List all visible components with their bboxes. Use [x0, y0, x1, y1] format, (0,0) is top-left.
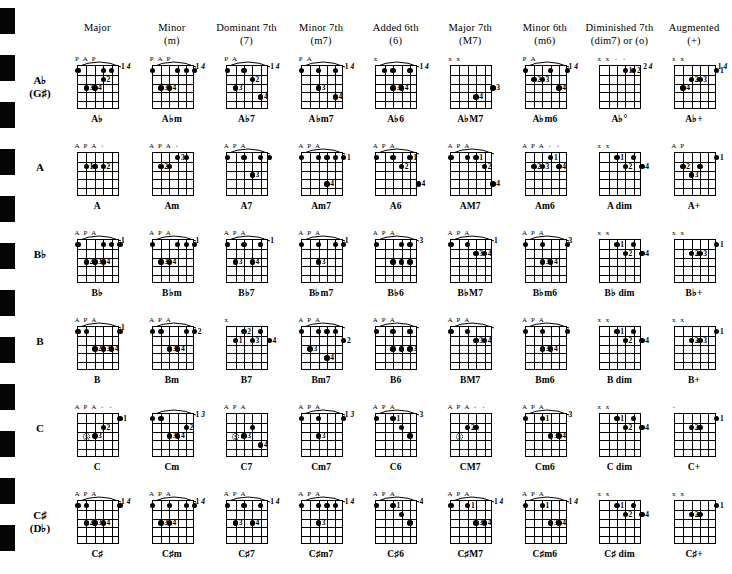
finger-dot — [689, 425, 694, 430]
chord-cell[interactable]: APA1341 4C♯M7 — [433, 487, 508, 574]
finger-number: 1 — [123, 415, 127, 423]
chord-cell[interactable]: x1234B7 — [209, 313, 284, 400]
chord-cell[interactable]: APA1341 4C♯m6 — [508, 487, 583, 574]
chord-cell[interactable]: APA1343Cm6 — [508, 400, 583, 487]
open-marker: ◦ — [98, 404, 106, 411]
chord-cell[interactable]: AP123A+ — [657, 139, 732, 226]
chord-cell[interactable]: PAP2341 4A♭ — [60, 52, 135, 139]
chord-cell[interactable]: APA343B♭m6 — [508, 226, 583, 313]
finger-dot — [233, 338, 238, 343]
chord-cell[interactable]: APA341B♭M7 — [433, 226, 508, 313]
fret-line — [600, 519, 640, 520]
chord-cell[interactable]: APA34BM7 — [433, 313, 508, 400]
chord-cell[interactable]: xx123B♭+ — [657, 226, 732, 313]
column-header-symbol: (6) — [358, 35, 433, 48]
row-label-enharmonic: (D♭) — [22, 522, 58, 535]
fret-line — [675, 101, 715, 102]
chord-cell[interactable]: APA◦◦32CM7 — [433, 400, 508, 487]
finger-hint-A: A — [164, 143, 172, 150]
chord-cell[interactable]: APA31 3Cm7 — [284, 400, 359, 487]
chord-cell[interactable]: APA342Bm — [135, 313, 210, 400]
chord-cell[interactable]: PAP341 4A♭m — [135, 52, 210, 139]
finger-dot — [75, 329, 80, 334]
chord-cell[interactable]: APA31 4C♯m7 — [284, 487, 359, 574]
finger-number: 2 — [488, 163, 492, 171]
finger-dot — [614, 503, 619, 508]
mute-marker: x — [595, 56, 603, 63]
fret-line — [451, 440, 491, 441]
chord-cell[interactable]: PA341 4A♭m7 — [284, 52, 359, 139]
row-label: A — [22, 161, 58, 174]
finger-number: 4 — [479, 93, 483, 101]
chord-cell[interactable]: APA2341 4C♯ — [60, 487, 135, 574]
finger-number: 4 — [256, 519, 260, 527]
fretboard-grid: 12 — [674, 413, 716, 457]
finger-number: 1 — [620, 328, 624, 336]
chord-cell[interactable]: xx123B+ — [657, 313, 732, 400]
chord-cell[interactable]: APA◦◦2314Am6 — [508, 139, 583, 226]
chord-cell[interactable]: 2341 3Cm — [135, 400, 210, 487]
chord-cell[interactable]: APA3A7 — [209, 139, 284, 226]
nut-markers: APA◦◦ — [77, 404, 119, 413]
chord-cell[interactable]: APA31B♭m7 — [284, 226, 359, 313]
chord-cell[interactable]: APA◦◦3321C — [60, 400, 135, 487]
chord-cell[interactable]: APA13C6 — [358, 400, 433, 487]
chord-cell[interactable]: xx124B dim — [582, 313, 657, 400]
chord-cell[interactable]: APA341B♭7 — [209, 226, 284, 313]
chord-cell[interactable]: APA3B6 — [358, 313, 433, 400]
chord-cell[interactable]: APA124A6 — [358, 139, 433, 226]
chord-cell[interactable]: APA◦23Am — [135, 139, 210, 226]
chord-cell[interactable]: APA341 4C♯m — [135, 487, 210, 574]
chord-cell[interactable]: xx124C♯ dim — [582, 487, 657, 574]
chord-cell[interactable]: APA34Bm6 — [508, 313, 583, 400]
chord-cell[interactable]: xx12C♯+ — [657, 487, 732, 574]
chord-cell[interactable]: PA2341 4A♭7 — [209, 52, 284, 139]
chord-cell[interactable]: APA3B♭6 — [358, 226, 433, 313]
column-header-title: Diminished 7th — [586, 22, 654, 33]
chord-cell[interactable]: APA2341B — [60, 313, 135, 400]
finger-dot — [374, 155, 379, 160]
chord-name: C♯+ — [657, 549, 732, 560]
fret-line — [376, 266, 416, 267]
chord-diagram: APA341 — [226, 239, 268, 283]
chord-cell[interactable]: APA124AM7 — [433, 139, 508, 226]
column-header-symbol: (m) — [135, 35, 210, 48]
chord-cell[interactable]: xx124C dim — [582, 400, 657, 487]
finger-dot — [565, 329, 570, 334]
fret-line — [227, 510, 267, 511]
finger-number: 3 — [703, 337, 707, 345]
mute-marker: x — [604, 491, 612, 498]
chord-cell[interactable]: APA334C7 — [209, 400, 284, 487]
finger-dot — [548, 155, 553, 160]
finger-dot — [540, 503, 545, 508]
chord-cell[interactable]: xx124A dim — [582, 139, 657, 226]
chord-cell[interactable]: xx34A♭M7 — [433, 52, 508, 139]
finger-dot — [316, 329, 321, 334]
chord-cell[interactable]: APA341 4C♯7 — [209, 487, 284, 574]
chord-cell[interactable]: APA◦12A — [60, 139, 135, 226]
fret-line — [376, 423, 416, 424]
chord-cell[interactable]: xx◦◦122 4A♭° — [582, 52, 657, 139]
finger-number: 1 — [471, 502, 475, 510]
chord-cell[interactable]: APA14C♯6 — [358, 487, 433, 574]
fret-line — [600, 266, 640, 267]
chord-cell[interactable]: APA2341B♭ — [60, 226, 135, 313]
chord-name: B♭+ — [657, 288, 732, 299]
chord-cell[interactable]: xx124B♭ dim — [582, 226, 657, 313]
finger-dot — [158, 259, 163, 264]
finger-number: 4 — [264, 441, 268, 449]
chord-cell[interactable]: ◦12C+ — [657, 400, 732, 487]
chord-cell[interactable]: APA341B♭m — [135, 226, 210, 313]
finger-hint-P: P — [81, 143, 89, 150]
chord-diagram: 2341 3 — [152, 413, 194, 457]
nut-markers: xx — [599, 317, 641, 326]
fret-line — [675, 162, 715, 163]
finger-dot — [523, 68, 528, 73]
finger-dot — [299, 242, 304, 247]
chord-cell[interactable]: APA234Bm7 — [284, 313, 359, 400]
fretboard-grid: 234 — [152, 413, 194, 457]
chord-cell[interactable]: APA14Am7 — [284, 139, 359, 226]
chord-cell[interactable]: x341 4A♭6 — [358, 52, 433, 139]
chord-cell[interactable]: PA2341 4A♭m6 — [508, 52, 583, 139]
chord-cell[interactable]: xx12341 4A♭+ — [657, 52, 732, 139]
